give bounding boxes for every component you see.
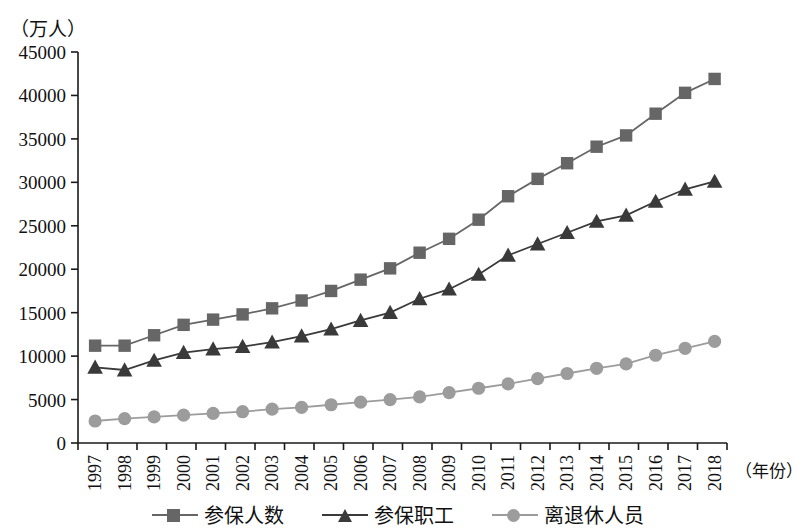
- data-point-square: [354, 273, 366, 285]
- y-axis-tick-label: 25000: [19, 216, 67, 237]
- chart-plot-area: 0500010000150002000025000300003500040000…: [0, 0, 796, 531]
- data-point-square: [531, 173, 543, 185]
- legend-marker-triangle-icon: [322, 506, 368, 524]
- data-point-square: [708, 73, 720, 85]
- legend-label: 参保职工: [374, 500, 454, 529]
- x-axis-tick-labels: 1997199819992000200120022003200420052006…: [85, 455, 725, 491]
- x-axis-tick-label: 2013: [557, 455, 577, 491]
- data-point-circle: [413, 390, 426, 403]
- data-point-circle: [531, 372, 544, 385]
- x-axis-tick-label: 2016: [646, 455, 666, 491]
- data-point-square: [118, 339, 130, 351]
- legend-item-lituixiu-renyuan[interactable]: 离退休人员: [492, 500, 644, 529]
- x-axis-tick-label: 2000: [174, 455, 194, 491]
- chart-legend: 参保人数 参保职工 离退休人员: [0, 500, 796, 529]
- data-point-circle: [354, 396, 367, 409]
- data-point-square: [148, 329, 160, 341]
- data-point-triangle: [471, 267, 487, 281]
- y-axis-tick-label: 35000: [19, 129, 67, 150]
- x-axis-tick-label: 2004: [292, 455, 312, 491]
- data-point-circle: [148, 410, 161, 423]
- data-point-triangle: [382, 305, 398, 319]
- data-point-circle: [443, 386, 456, 399]
- data-point-triangle: [412, 291, 428, 305]
- x-axis-tick-label: 1999: [144, 455, 164, 491]
- data-point-square: [236, 308, 248, 320]
- series-line-2: [95, 181, 715, 370]
- x-axis-title: （年份）: [735, 457, 796, 482]
- y-axis-ticks: [71, 52, 78, 443]
- legend-marker-square-icon: [152, 506, 198, 524]
- data-point-square: [207, 313, 219, 325]
- data-point-circle: [649, 349, 662, 362]
- data-point-square: [177, 319, 189, 331]
- y-axis-tick-labels: 0500010000150002000025000300003500040000…: [19, 42, 67, 454]
- x-axis-tick-label: 2012: [528, 455, 548, 491]
- x-axis-tick-label: 1997: [85, 455, 105, 491]
- data-point-triangle: [618, 208, 634, 222]
- x-axis-tick-label: 2001: [203, 455, 223, 491]
- legend-item-canbao-renshu[interactable]: 参保人数: [152, 500, 284, 529]
- data-point-square: [384, 262, 396, 274]
- y-axis-tick-label: 20000: [19, 259, 67, 280]
- data-point-square: [295, 294, 307, 306]
- data-point-circle: [207, 407, 220, 420]
- data-point-circle: [590, 362, 603, 375]
- data-point-square: [89, 339, 101, 351]
- x-axis-tick-label: 2014: [587, 455, 607, 491]
- data-point-triangle: [648, 194, 664, 208]
- legend-label: 参保人数: [204, 500, 284, 529]
- x-axis-tick-label: 2003: [262, 455, 282, 491]
- x-axis-tick-label: 2011: [498, 455, 518, 490]
- series-markers: [87, 73, 722, 428]
- y-axis-tick-label: 15000: [19, 303, 67, 324]
- y-axis-tick-label: 0: [57, 433, 67, 454]
- data-point-square: [649, 107, 661, 119]
- data-point-square: [266, 302, 278, 314]
- data-point-circle: [325, 398, 338, 411]
- y-axis-tick-label: 45000: [19, 42, 67, 63]
- data-point-square: [443, 233, 455, 245]
- legend-item-canbao-zhigong[interactable]: 参保职工: [322, 500, 454, 529]
- data-point-triangle: [530, 236, 546, 250]
- data-point-circle: [295, 401, 308, 414]
- data-point-square: [502, 190, 514, 202]
- data-point-triangle: [559, 225, 575, 239]
- x-axis-tick-label: 2017: [675, 455, 695, 491]
- y-axis-tick-label: 5000: [28, 390, 66, 411]
- data-point-square: [561, 157, 573, 169]
- data-point-circle: [679, 342, 692, 355]
- data-point-circle: [472, 382, 485, 395]
- data-point-circle: [620, 357, 633, 370]
- x-axis-tick-label: 2018: [705, 455, 725, 491]
- data-point-circle: [177, 409, 190, 422]
- data-point-circle: [708, 335, 721, 348]
- y-axis-tick-label: 40000: [19, 85, 67, 106]
- data-point-circle: [266, 403, 279, 416]
- data-point-circle: [236, 405, 249, 418]
- data-point-circle: [118, 412, 131, 425]
- data-point-square: [679, 87, 691, 99]
- data-point-circle: [561, 367, 574, 380]
- legend-label: 离退休人员: [544, 500, 644, 529]
- y-axis-tick-label: 30000: [19, 172, 67, 193]
- data-point-square: [472, 213, 484, 225]
- data-point-square: [620, 129, 632, 141]
- data-point-circle: [502, 377, 515, 390]
- data-point-circle: [384, 393, 397, 406]
- x-axis-tick-label: 2002: [233, 455, 253, 491]
- x-axis-tick-label: 1998: [115, 455, 135, 491]
- data-point-square: [590, 141, 602, 153]
- x-axis-tick-label: 2006: [351, 455, 371, 491]
- data-point-square: [413, 247, 425, 259]
- data-point-triangle: [707, 174, 723, 188]
- data-point-triangle: [500, 248, 516, 262]
- x-axis-tick-label: 2007: [380, 455, 400, 491]
- data-point-triangle: [441, 281, 457, 295]
- x-axis-tick-label: 2015: [616, 455, 636, 491]
- y-axis-tick-label: 10000: [19, 346, 67, 367]
- chart-container: （万人） 05000100001500020000250003000035000…: [0, 0, 796, 531]
- x-axis-tick-label: 2009: [439, 455, 459, 491]
- x-axis-ticks: [78, 443, 727, 450]
- data-point-circle: [89, 414, 102, 427]
